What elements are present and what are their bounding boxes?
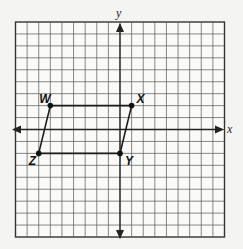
coordinate-plane: x y WXYZ	[0, 0, 243, 249]
vertex-y-label: Y	[125, 154, 134, 168]
y-axis-label: y	[115, 6, 122, 20]
vertex-x-dot	[129, 103, 135, 109]
vertex-z-label: Z	[28, 154, 37, 168]
vertex-y-dot	[117, 151, 123, 157]
vertex-x-label: X	[136, 92, 146, 106]
vertex-z-dot	[36, 151, 42, 157]
x-axis-label: x	[226, 122, 233, 136]
vertex-w-label: W	[39, 92, 52, 106]
